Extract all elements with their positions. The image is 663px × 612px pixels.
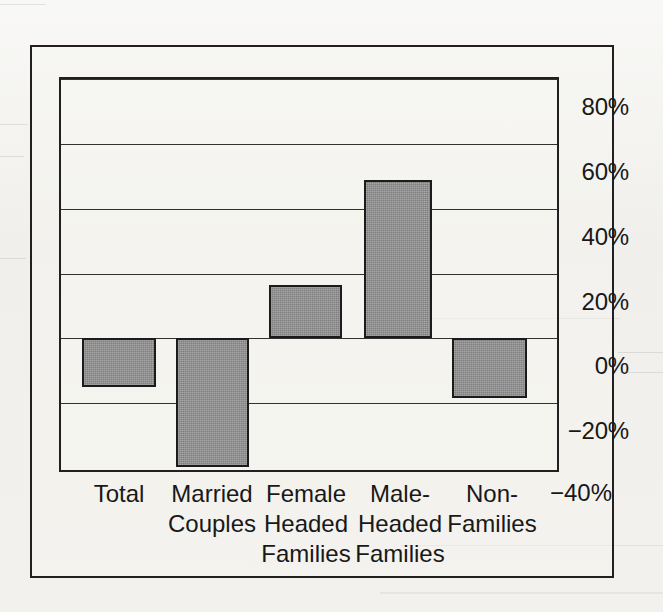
x-axis-labels: Total Married Couples Female Headed Fami… [59,479,579,574]
gridline-20 [61,274,557,275]
bar-non-families[interactable] [452,338,527,398]
ytick-label-neg40: −40% [517,479,612,507]
bar-female-headed-families[interactable] [269,285,342,338]
gridline-neg20 [61,403,557,404]
plot-area: 80% 60% 40% 20% 0% −20% [59,77,559,472]
gridline-60 [61,144,557,145]
gridline-80 [61,79,557,80]
bar-male-headed-families[interactable] [364,180,432,338]
bar-total[interactable] [82,338,156,387]
ytick-label-0: 0% [563,352,629,380]
xlabel-female-headed-families: Female Headed Families [256,479,356,569]
xlabel-male-headed-families: Male- Headed Families [350,479,450,569]
ytick-label-neg20: −20% [563,417,629,445]
ytick-label-20: 20% [563,288,629,316]
xlabel-married-couples: Married Couples [162,479,262,539]
ytick-label-60: 60% [563,158,629,186]
xlabel-total: Total [69,479,169,509]
bar-married-couples[interactable] [176,338,249,467]
ytick-label-80: 80% [563,93,629,121]
gridline-40 [61,209,557,210]
ytick-label-40: 40% [563,223,629,251]
figure-frame: 80% 60% 40% 20% 0% −20% Total Married Co… [30,45,614,578]
